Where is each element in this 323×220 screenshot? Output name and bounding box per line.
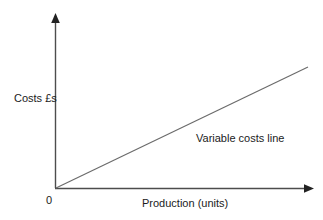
variable-costs-line <box>56 67 308 188</box>
variable-costs-diagram: Costs £s Production (units) 0 Variable c… <box>0 0 323 220</box>
diagram-canvas <box>0 0 323 220</box>
x-axis-arrow-icon <box>304 184 314 193</box>
variable-costs-line-label: Variable costs line <box>196 132 284 145</box>
y-axis-label: Costs £s <box>14 92 57 105</box>
origin-label: 0 <box>46 194 52 207</box>
y-axis-arrow-icon <box>51 13 60 23</box>
x-axis-label: Production (units) <box>142 197 228 210</box>
